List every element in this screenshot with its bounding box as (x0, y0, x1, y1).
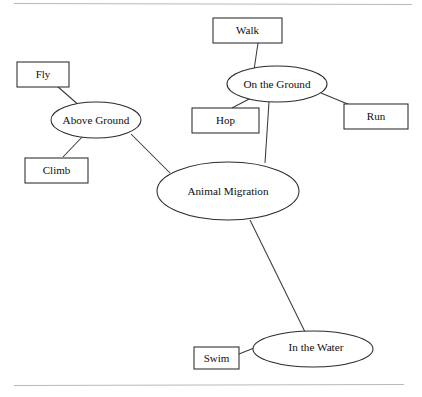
edge-in-the-water-to-swim (239, 348, 254, 354)
node-run[interactable]: Run (344, 104, 408, 129)
node-run-label: Run (367, 110, 386, 122)
node-animal-migration-label: Animal Migration (187, 185, 269, 197)
node-above-ground-label: Above Ground (63, 114, 130, 126)
edge-on-the-ground-to-walk (254, 43, 258, 70)
node-swim[interactable]: Swim (194, 347, 239, 369)
edge-above-ground-to-climb (63, 135, 84, 157)
edge-center-to-above-ground (131, 134, 170, 173)
node-on-the-ground[interactable]: On the Ground (227, 66, 327, 102)
node-walk-label: Walk (236, 24, 259, 36)
node-swim-label: Swim (204, 352, 230, 364)
diagram-page: Walk Fly On the Ground Run Hop Above Gro… (0, 0, 422, 397)
node-hop-label: Hop (216, 114, 235, 126)
bottom-rule (14, 385, 404, 386)
node-hop[interactable]: Hop (192, 108, 259, 133)
edge-on-the-ground-to-run (321, 93, 350, 105)
concept-map-canvas: Walk Fly On the Ground Run Hop Above Gro… (0, 0, 422, 397)
node-in-the-water[interactable]: In the Water (253, 331, 373, 367)
node-fly-label: Fly (36, 68, 51, 80)
node-animal-migration[interactable]: Animal Migration (157, 162, 299, 220)
edge-center-to-on-the-ground (265, 102, 269, 163)
node-in-the-water-label: In the Water (289, 341, 344, 353)
edge-center-to-in-the-water (250, 220, 307, 336)
node-climb[interactable]: Climb (25, 158, 88, 183)
edge-on-the-ground-to-hop (232, 98, 251, 108)
node-walk[interactable]: Walk (213, 18, 282, 43)
node-climb-label: Climb (43, 164, 71, 176)
node-above-ground[interactable]: Above Ground (51, 102, 141, 138)
node-on-the-ground-label: On the Ground (243, 78, 311, 90)
node-fly[interactable]: Fly (17, 62, 69, 87)
top-rule (14, 4, 412, 5)
